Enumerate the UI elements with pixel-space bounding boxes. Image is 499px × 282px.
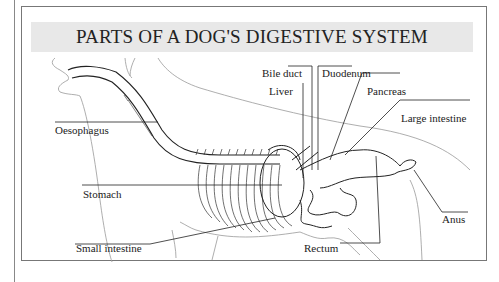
label-liver: Liver [269, 85, 293, 97]
label-stomach: Stomach [83, 188, 122, 200]
label-anus: Anus [442, 213, 465, 225]
dog-anatomy-illustration [0, 0, 499, 282]
label-bile-duct: Bile duct [262, 67, 302, 79]
label-rectum: Rectum [304, 242, 338, 254]
label-pancreas: Pancreas [367, 85, 406, 97]
label-oesophagus: Oesophagus [55, 124, 109, 136]
label-small-intestine: Small intestine [76, 242, 142, 254]
label-duodenum: Duodenum [322, 67, 371, 79]
label-large-intestine: Large intestine [401, 112, 466, 124]
